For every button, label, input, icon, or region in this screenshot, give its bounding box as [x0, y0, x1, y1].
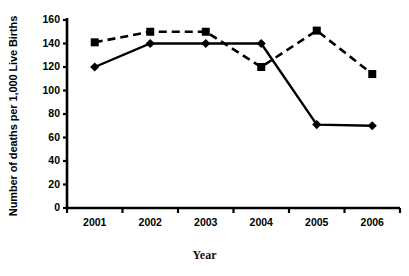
plot-area — [0, 0, 409, 276]
data-point-marker — [90, 62, 99, 71]
x-axis-title: Year — [0, 248, 409, 263]
data-point-marker — [313, 27, 321, 35]
data-point-marker — [146, 39, 155, 48]
data-point-marker — [368, 70, 376, 78]
data-series — [90, 27, 377, 131]
series-line-solid-series — [95, 44, 373, 126]
data-point-marker — [146, 28, 154, 36]
data-point-marker — [201, 39, 210, 48]
data-point-marker — [257, 63, 265, 71]
line-chart: Number of deaths per 1,000 Live Births 0… — [0, 0, 409, 276]
data-point-marker — [368, 121, 377, 130]
data-point-marker — [91, 38, 99, 46]
data-point-marker — [202, 28, 210, 36]
series-line-dashed-series — [95, 31, 373, 74]
axes — [63, 18, 400, 213]
